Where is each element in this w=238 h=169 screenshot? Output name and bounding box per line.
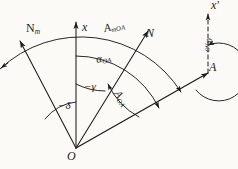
point-a-label: A	[209, 61, 216, 73]
reverse-azimuth-arc	[196, 43, 238, 101]
convergence-label: −γ	[84, 81, 96, 92]
azimuth-diagram: Nm x AmOA N αOA −γ AOA −δ x' αAO A O	[0, 0, 238, 169]
reverse-azimuth-label: αAO	[205, 38, 216, 52]
x-axis-label: x	[82, 21, 87, 33]
x-prime-axis-label: x'	[211, 0, 219, 11]
grid-bearing-label: αOA	[95, 51, 112, 65]
origin-label: O	[67, 150, 76, 162]
magnetic-north-ray	[20, 41, 76, 148]
magnetic-north-label: Nm	[26, 22, 40, 34]
magnetic-azimuth-arc-start-arrow	[1, 63, 8, 68]
declination-label: −δ	[58, 100, 71, 111]
true-north-label: N	[146, 27, 154, 39]
